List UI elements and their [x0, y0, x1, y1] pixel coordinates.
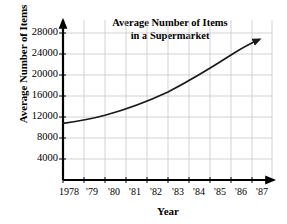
chart-plot-area [0, 0, 287, 224]
chart-figure: Average Number of Items in a Supermarket… [0, 0, 287, 224]
grid-vertical [84, 20, 272, 180]
data-curve-average-items [63, 40, 259, 124]
grid-horizontal [63, 33, 272, 159]
